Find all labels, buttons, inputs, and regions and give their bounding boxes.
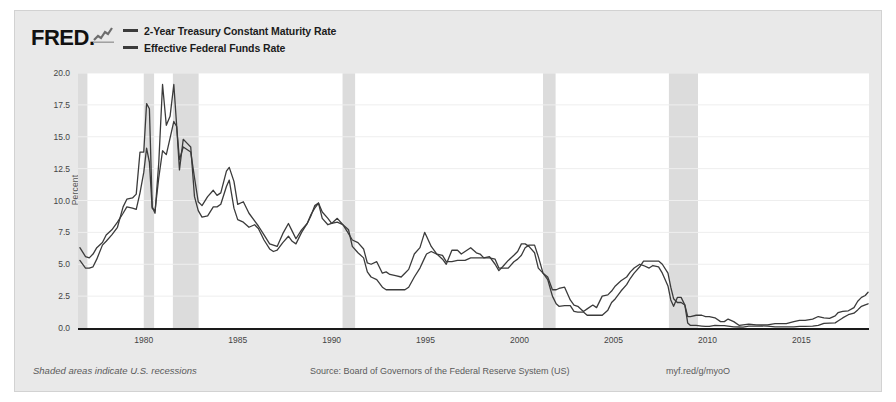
- y-axis-tick-label: 5.0: [24, 259, 78, 269]
- fred-logo-text: FRED: [31, 25, 89, 50]
- legend-label-fed-funds: Effective Federal Funds Rate: [144, 42, 285, 54]
- y-axis-tick-label: 20.0: [24, 68, 78, 78]
- x-axis-baseline: [78, 328, 869, 330]
- x-axis-tick-label: 2000: [510, 335, 529, 345]
- recession-shading-note: Shaded areas indicate U.S. recessions: [33, 365, 197, 376]
- permalink[interactable]: myf.red/g/myoO: [666, 366, 730, 376]
- y-axis-tick-label: 0.0: [24, 323, 78, 333]
- x-axis-tick-label: 2010: [698, 335, 717, 345]
- chart-footer: Shaded areas indicate U.S. recessions So…: [15, 355, 881, 391]
- legend-item-fed-funds[interactable]: Effective Federal Funds Rate: [123, 40, 336, 55]
- y-axis-tick-label: 7.5: [24, 227, 78, 237]
- fred-chart-card: FRED. 2-Year Treasury Constant Maturity …: [14, 10, 882, 392]
- plot-container: Percent 0.02.55.07.510.012.515.017.520.0…: [78, 73, 869, 339]
- legend-label-2y-treasury: 2-Year Treasury Constant Maturity Rate: [144, 25, 336, 37]
- x-axis-tick-label: 1980: [134, 335, 153, 345]
- chart-legend: 2-Year Treasury Constant Maturity Rate E…: [123, 23, 336, 57]
- x-axis-tick-label: 1985: [228, 335, 247, 345]
- data-source-note: Source: Board of Governors of the Federa…: [310, 366, 570, 376]
- legend-item-2y-treasury[interactable]: 2-Year Treasury Constant Maturity Rate: [123, 23, 336, 38]
- fred-logo: FRED.: [31, 25, 95, 51]
- y-axis-tick-label: 2.5: [24, 291, 78, 301]
- x-axis-tick-label: 1995: [416, 335, 435, 345]
- x-axis-tick-label: 2005: [604, 335, 623, 345]
- chart-svg: [78, 73, 869, 328]
- x-axis-tick-label: 2015: [792, 335, 811, 345]
- legend-swatch-fed-funds: [123, 46, 138, 49]
- legend-swatch-2y-treasury: [123, 29, 138, 32]
- x-axis-tick-label: 1990: [322, 335, 341, 345]
- y-axis-tick-label: 17.5: [24, 100, 78, 110]
- y-axis-tick-label: 10.0: [24, 196, 78, 206]
- chart-header: FRED. 2-Year Treasury Constant Maturity …: [15, 11, 881, 59]
- y-axis-tick-label: 15.0: [24, 132, 78, 142]
- mini-line-chart-icon: [93, 27, 115, 43]
- y-axis-tick-label: 12.5: [24, 164, 78, 174]
- plot-area[interactable]: [78, 73, 869, 328]
